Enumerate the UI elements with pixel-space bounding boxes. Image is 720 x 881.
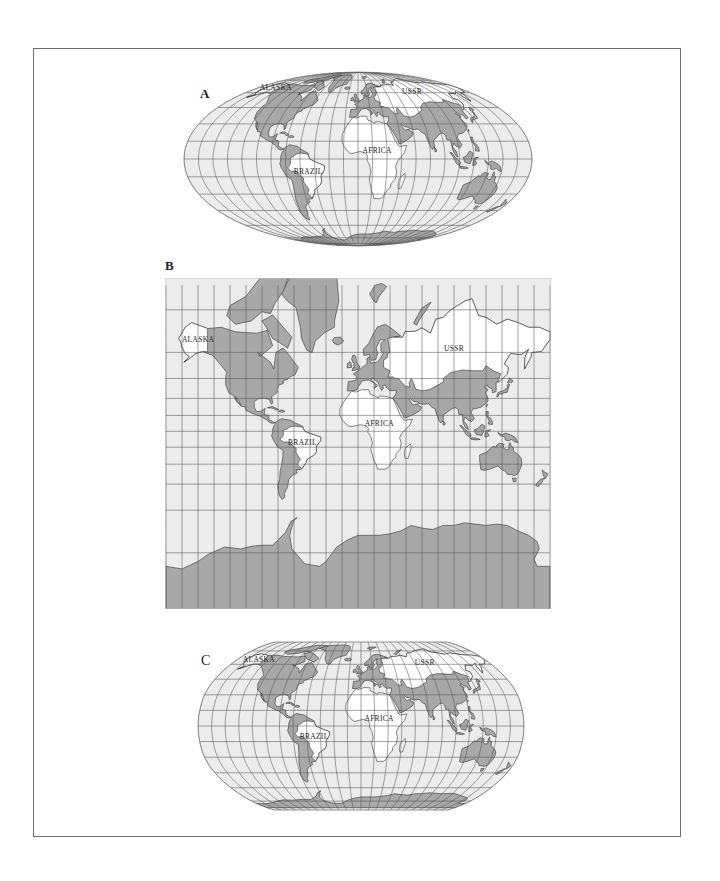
- label-ussr: USSR: [402, 87, 422, 96]
- mollweide-world-map: ALASKAUSSRAFRICABRAZIL: [183, 71, 533, 247]
- label-brazil: BRAZIL: [294, 167, 323, 176]
- robinson-world-map: ALASKAUSSRAFRICABRAZIL: [197, 641, 525, 811]
- label-africa: AFRICA: [364, 714, 394, 723]
- label-alaska: ALASKA: [182, 335, 215, 344]
- hispaniola-landmass: [295, 705, 300, 707]
- label-ussr: USSR: [415, 658, 435, 667]
- label-brazil: BRAZIL: [288, 438, 317, 447]
- label-alaska: ALASKA: [260, 83, 293, 92]
- mercator-world-map: ALASKAUSSRAFRICABRAZIL: [165, 278, 551, 609]
- label-africa: AFRICA: [365, 419, 395, 428]
- panel-label-b: B: [165, 258, 174, 274]
- label-africa: AFRICA: [363, 146, 393, 155]
- label-brazil: BRAZIL: [300, 732, 329, 741]
- label-alaska: ALASKA: [243, 655, 276, 664]
- label-ussr: USSR: [444, 344, 464, 353]
